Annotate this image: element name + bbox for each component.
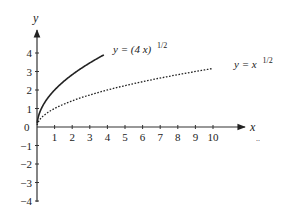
chart-canvas: x y 12345678910 1234−1−2−3−4 0 y = (4 x)… (0, 0, 288, 205)
series1-label-main: y = (4 x) (112, 43, 152, 56)
y-tick-label: 4 (27, 47, 33, 59)
series2-label: y = x 1/2 (233, 56, 273, 70)
y-tick-label: 3 (27, 66, 33, 78)
y-axis-label: y (32, 11, 39, 25)
x-tick-label: 3 (87, 131, 93, 143)
x-axis-label: x (249, 120, 256, 134)
y-tick-label: −1 (20, 140, 32, 152)
series1-label: y = (4 x) 1/2 (112, 41, 167, 56)
x-tick-label: 1 (52, 131, 58, 143)
x-tick-label: 4 (105, 131, 111, 143)
y-tick-label: 2 (27, 84, 33, 96)
x-tick-label: 9 (193, 131, 199, 143)
y-tick-label: 1 (27, 103, 33, 115)
series1-label-exp: 1/2 (157, 41, 167, 50)
y-tick-label: −2 (20, 158, 32, 170)
series2-label-exp: 1/2 (262, 56, 272, 65)
x-tick-label: 10 (208, 131, 220, 143)
x-tick-label: 6 (140, 131, 146, 143)
x-tick-label: 2 (69, 131, 75, 143)
x-tick-label: 8 (175, 131, 181, 143)
x-ticks: 12345678910 (52, 125, 219, 143)
origin-label: 0 (24, 121, 30, 133)
y-tick-label: −4 (20, 195, 32, 205)
x-tick-label: 5 (122, 131, 128, 143)
series-sqrt-x (37, 69, 213, 126)
x-tick-label: 7 (157, 131, 163, 143)
series2-label-main: y = x (233, 58, 257, 70)
ellipsis-annotation: .. (256, 134, 260, 143)
y-tick-label: −3 (20, 177, 32, 189)
